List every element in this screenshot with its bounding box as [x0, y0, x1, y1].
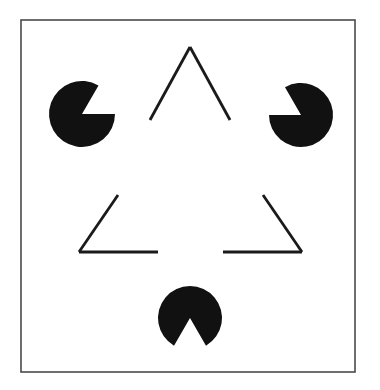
figure-background [0, 0, 380, 390]
kanizsa-figure-root [0, 0, 380, 390]
kanizsa-figure-svg [0, 0, 380, 390]
